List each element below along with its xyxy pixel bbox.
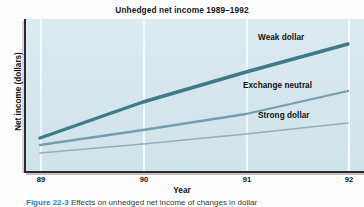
x-tick-label-92: 92 xyxy=(345,175,353,184)
chart-title: Unhedged net income 1989–1992 xyxy=(0,5,364,15)
x-axis-title: Year xyxy=(0,186,364,195)
figure-caption-number: Figure 22-3 xyxy=(26,198,69,207)
series-label-weak-dollar: Weak dollar xyxy=(258,33,304,42)
series-label-strong-dollar: Strong dollar xyxy=(258,111,310,120)
series-line-weak-dollar xyxy=(40,44,348,138)
y-axis-line xyxy=(24,19,26,173)
figure-caption-text: Effects on unhedged net income of change… xyxy=(71,198,257,207)
plot-area xyxy=(26,19,364,172)
figure-caption: Figure 22-3 Effects on unhedged net inco… xyxy=(26,198,356,207)
y-axis-title: Net income (dollars) xyxy=(14,27,23,157)
x-tick-label-91: 91 xyxy=(243,175,251,184)
series-label-exchange-neutral: Exchange neutral xyxy=(243,81,312,90)
series-plot xyxy=(26,19,364,172)
x-tick-label-90: 90 xyxy=(140,175,148,184)
figure-container: Unhedged net income 1989–1992 Weak dolla… xyxy=(0,0,364,207)
x-tick-label-89: 89 xyxy=(37,175,45,184)
x-axis-shadow xyxy=(26,173,364,175)
x-axis-line xyxy=(24,171,364,173)
